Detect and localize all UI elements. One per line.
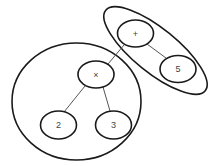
node-three: 3 bbox=[96, 111, 132, 139]
edge-plus-five bbox=[147, 44, 166, 58]
edge-times-three bbox=[103, 87, 110, 111]
node-three-label: 3 bbox=[111, 120, 116, 130]
node-five: 5 bbox=[160, 56, 196, 83]
node-plus-label: + bbox=[133, 29, 138, 39]
node-plus: + bbox=[118, 20, 154, 47]
node-times-label: × bbox=[93, 70, 98, 80]
edge-plus-times bbox=[108, 45, 124, 64]
node-times: × bbox=[78, 61, 114, 88]
expression-tree-diagram: + × 5 2 3 bbox=[0, 0, 214, 166]
node-five-label: 5 bbox=[175, 64, 180, 74]
edge-times-two bbox=[64, 86, 85, 112]
group-outline-multiply-subtree bbox=[12, 43, 141, 160]
group-outline-plus-five bbox=[92, 0, 214, 108]
node-two: 2 bbox=[41, 111, 77, 139]
node-two-label: 2 bbox=[56, 120, 61, 130]
